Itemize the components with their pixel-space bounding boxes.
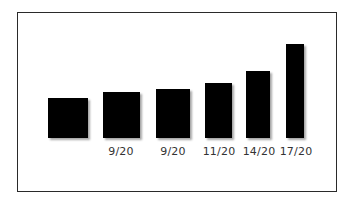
bar-label-2: 9/20 bbox=[101, 145, 141, 158]
bar-6 bbox=[286, 44, 304, 138]
bar-label-6: 17/20 bbox=[276, 145, 316, 158]
bar-label-5: 14/20 bbox=[239, 145, 279, 158]
bar-1 bbox=[48, 98, 88, 138]
bar-label-4: 11/20 bbox=[199, 145, 239, 158]
bar-label-3: 9/20 bbox=[153, 145, 193, 158]
bar-4 bbox=[205, 83, 232, 138]
bar-3 bbox=[156, 89, 190, 138]
bar-5 bbox=[246, 71, 270, 138]
bar-2 bbox=[103, 92, 140, 138]
